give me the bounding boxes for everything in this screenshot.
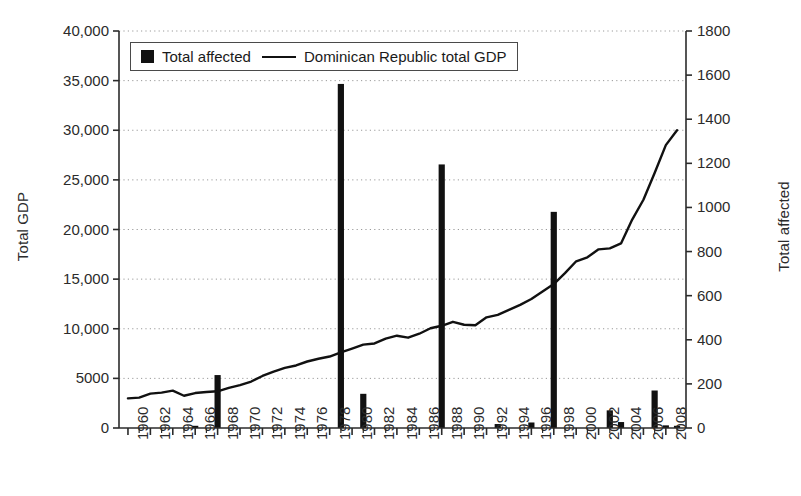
x-tick-label: 2008: [672, 407, 689, 440]
x-tick-label: 2004: [627, 407, 644, 440]
x-tick-label: 2000: [582, 407, 599, 440]
x-tick-label: 1998: [560, 407, 577, 440]
y-tick-label-right: 200: [697, 375, 722, 392]
y-tick-label-left: 25,000: [63, 171, 109, 188]
x-tick-label: 1970: [246, 407, 263, 440]
y-tick-label-left: 0: [101, 419, 109, 436]
bar-swatch-icon: [141, 50, 154, 63]
y-tick-label-right: 1400: [697, 110, 730, 127]
bar-total-affected: [551, 212, 557, 428]
x-tick-label: 1992: [493, 407, 510, 440]
x-tick-label: 1996: [537, 407, 554, 440]
line-gdp: [128, 130, 677, 398]
y-tick-label-left: 5000: [76, 369, 109, 386]
legend-entry-total-affected: Total affected: [141, 48, 251, 65]
legend-label-gdp: Dominican Republic total GDP: [304, 48, 507, 65]
x-tick-label: 1990: [470, 407, 487, 440]
y-tick-label-left: 20,000: [63, 221, 109, 238]
x-tick-label: 1968: [224, 407, 241, 440]
x-tick-label: 1964: [179, 407, 196, 440]
y-tick-label-right: 800: [697, 243, 722, 260]
x-tick-label: 1982: [380, 407, 397, 440]
chart-legend: Total affected Dominican Republic total …: [130, 42, 518, 71]
bar-total-affected: [439, 164, 445, 428]
legend-entry-gdp-line: Dominican Republic total GDP: [262, 48, 507, 65]
x-tick-label: 1972: [268, 407, 285, 440]
legend-label-total-affected: Total affected: [162, 48, 251, 65]
y-tick-label-right: 600: [697, 287, 722, 304]
y-tick-label-left: 35,000: [63, 72, 109, 89]
x-tick-label: 1976: [313, 407, 330, 440]
y-tick-label-left: 15,000: [63, 270, 109, 287]
y-tick-label-right: 1000: [697, 198, 730, 215]
line-swatch-icon: [262, 56, 296, 58]
x-tick-label: 1960: [134, 407, 151, 440]
x-tick-label: 1988: [448, 407, 465, 440]
bar-total-affected: [338, 84, 344, 428]
x-tick-label: 1962: [156, 407, 173, 440]
y-tick-label-left: 10,000: [63, 320, 109, 337]
y-tick-label-right: 1600: [697, 66, 730, 83]
x-tick-label: 1986: [425, 407, 442, 440]
x-tick-label: 1978: [336, 407, 353, 440]
y-tick-label-right: 400: [697, 331, 722, 348]
chart-figure: Total GDP Total affected Total affected …: [0, 0, 801, 496]
x-tick-label: 1966: [201, 407, 218, 440]
y-tick-label-right: 1200: [697, 154, 730, 171]
y-tick-label-left: 40,000: [63, 22, 109, 39]
x-tick-label: 2006: [649, 407, 666, 440]
x-tick-label: 2002: [605, 407, 622, 440]
y-tick-label-right: 1800: [697, 22, 730, 39]
y-tick-label-right: 0: [697, 419, 705, 436]
x-tick-label: 1994: [515, 407, 532, 440]
x-tick-label: 1980: [358, 407, 375, 440]
x-tick-label: 1974: [291, 407, 308, 440]
y-tick-label-left: 30,000: [63, 121, 109, 138]
x-tick-label: 1984: [403, 407, 420, 440]
